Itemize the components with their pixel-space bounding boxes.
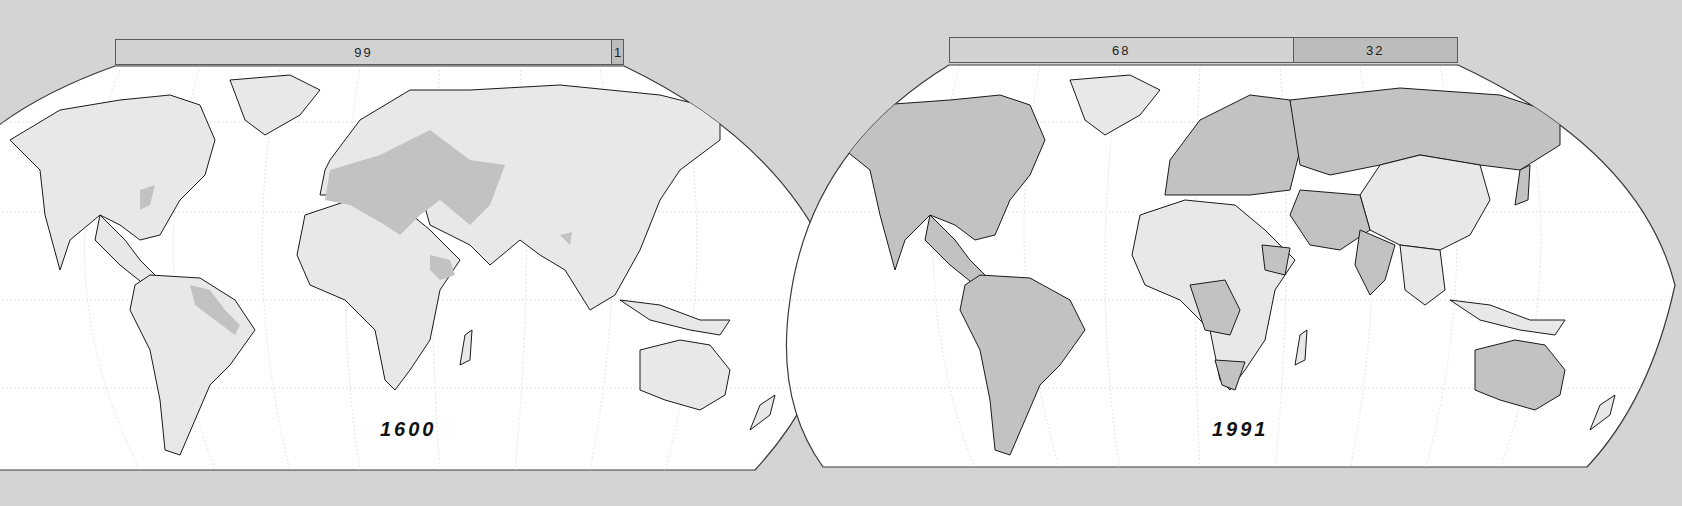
share-bar-1600: 99 1 xyxy=(115,39,624,65)
year-label-1600: 1600 xyxy=(380,418,437,441)
share-segment-68: 68 xyxy=(950,38,1293,62)
share-bar-1991: 68 32 xyxy=(949,37,1458,63)
year-label-1991: 1991 xyxy=(1212,418,1269,441)
map-1600 xyxy=(0,66,850,470)
ethiopia-1991 xyxy=(1262,245,1290,275)
world-maps-comparison: 99 1 68 32 1600 1991 xyxy=(0,0,1682,506)
share-segment-1: 1 xyxy=(611,40,623,64)
share-segment-32: 32 xyxy=(1293,38,1457,62)
map-1991 xyxy=(780,65,1680,470)
share-segment-99: 99 xyxy=(116,40,611,64)
maps-svg xyxy=(0,0,1682,506)
